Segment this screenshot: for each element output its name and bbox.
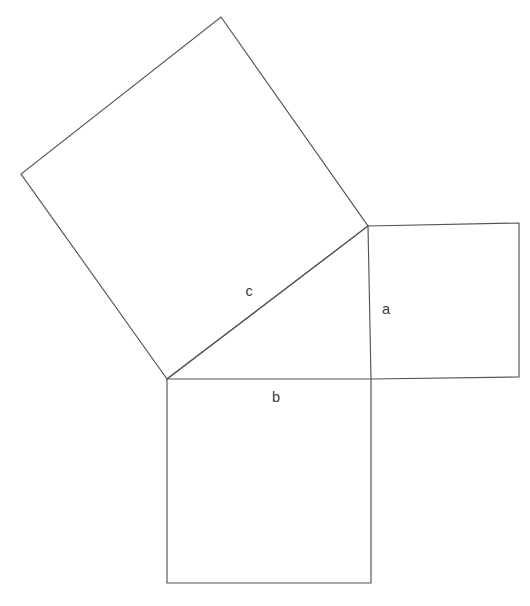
label-hypotenuse-c: c <box>245 283 252 299</box>
square-on-vertical-leg <box>368 223 519 379</box>
square-on-hypotenuse <box>21 17 368 379</box>
pythagorean-theorem-figure: c a b <box>0 0 530 606</box>
pythagorean-diagram: c a b <box>0 0 530 606</box>
label-horizontal-leg-b: b <box>272 389 280 405</box>
label-vertical-leg-a: a <box>382 301 391 317</box>
square-on-horizontal-leg <box>167 379 371 583</box>
